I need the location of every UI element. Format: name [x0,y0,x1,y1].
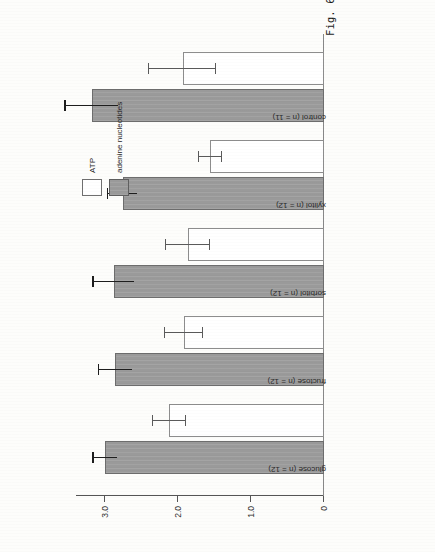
error-cap-lower [221,151,222,162]
caption-line-2: glucose, fructose, sorbitol ( 9 mmol/ 3 … [340,0,358,36]
category-label-sorbitol: sorbitol (n = 12) [270,289,326,298]
error-bar-adenine-nucleotides [99,369,131,370]
plot-area: 0 1.0 2.0 3.0 content of ATP and adenine… [76,34,324,496]
error-bar-adenine-nucleotides [94,457,117,458]
axis-tick-label-1: 1.0 [247,506,255,536]
caption-line-1: Fig. 6 Effect of 3 h continuous intraven… [322,0,340,36]
error-bar-atp [199,156,222,157]
chart-legend: ATP adenine nucleotides [82,102,136,196]
category-label-control: control (n = 11) [273,113,326,122]
bar-atp[interactable] [169,404,324,437]
chart-stage: 0 1.0 2.0 3.0 content of ATP and adenine… [68,16,368,536]
error-bar-atp [153,420,185,421]
axis-tick-2 [177,496,178,502]
legend-label-atp: ATP [88,158,97,173]
bar-group-glucose: glucose (n = 12) [76,396,324,474]
error-cap-upper [164,327,165,338]
error-cap-upper [165,239,166,250]
error-bar-atp [166,244,210,245]
error-bar-atp [149,68,216,69]
category-label-fructose: fructose (n = 12) [268,377,326,386]
error-cap-upper [152,415,153,426]
axis-tick-label-0: 0 [320,506,328,536]
error-cap-lower [215,63,216,74]
error-cap-lower [209,239,210,250]
category-label-glucose: glucose (n = 12) [268,465,326,474]
axis-tick-label-2: 2.0 [174,506,182,536]
bar-group-sorbitol: sorbitol (n = 12) [76,220,324,298]
value-axis [76,495,324,496]
error-bar-adenine-nucleotides [94,281,135,282]
legend-swatch-atp [82,179,102,196]
axis-tick-0 [323,496,324,502]
error-cap-upper [64,100,65,111]
error-cap-upper [92,276,93,287]
caption-line-3: litol ( 11 mmol/ 3 h ) on hepatic concen… [357,0,375,36]
bar-group-fructose: fructose (n = 12) [76,308,324,386]
axis-tick-3 [104,496,105,502]
bar-atp[interactable] [184,316,324,349]
error-cap-upper [98,364,99,375]
error-bar-atp [165,332,203,333]
error-cap-lower [202,327,203,338]
axis-tick-label-3: 3.0 [101,506,109,536]
figure-page: 0 1.0 2.0 3.0 content of ATP and adenine… [0,0,435,552]
category-label-xylitol: xylitol (n = 12) [276,201,326,210]
error-cap-upper [198,151,199,162]
bar-atp[interactable] [210,140,324,173]
axis-tick-1 [250,496,251,502]
legend-label-adenine-nucleotides: adenine nucleotides [115,102,124,173]
legend-item-atp[interactable]: ATP [82,102,102,196]
error-cap-upper [92,452,93,463]
legend-item-adenine-nucleotides[interactable]: adenine nucleotides [109,102,129,196]
error-cap-lower [185,415,186,426]
figure-caption: Fig. 6 Effect of 3 h continuous intraven… [322,0,392,36]
error-cap-upper [148,63,149,74]
legend-swatch-adenine-nucleotides [109,179,129,196]
caption-line-4: ATP or adenine nucleotides. [375,0,393,36]
